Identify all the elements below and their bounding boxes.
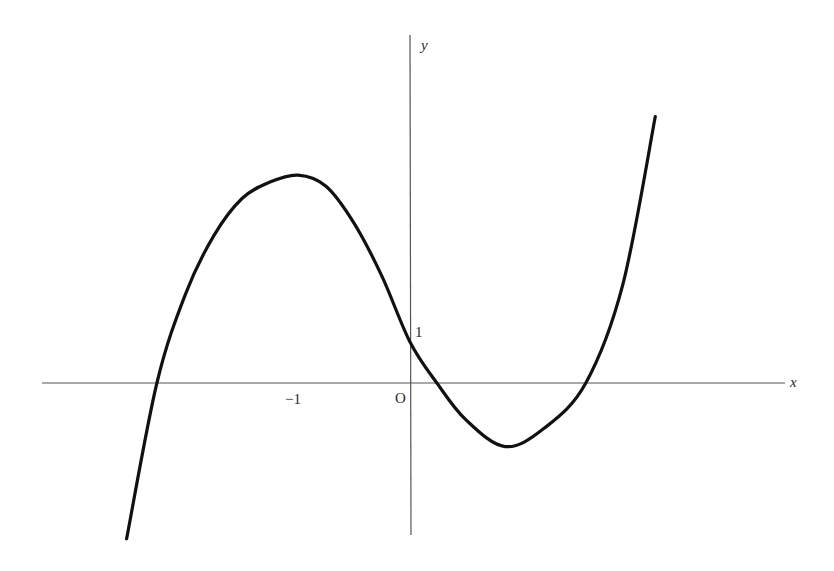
x-tick-label-minus-one: −1 xyxy=(285,391,301,407)
cubic-function-graph: y x O −1 1 xyxy=(0,0,834,571)
y-axis-label: y xyxy=(419,37,428,53)
y-tick-label-one: 1 xyxy=(415,324,423,340)
origin-label: O xyxy=(395,390,406,406)
cubic-curve xyxy=(127,117,656,539)
y-axis xyxy=(410,35,411,535)
x-axis-label: x xyxy=(789,374,797,390)
